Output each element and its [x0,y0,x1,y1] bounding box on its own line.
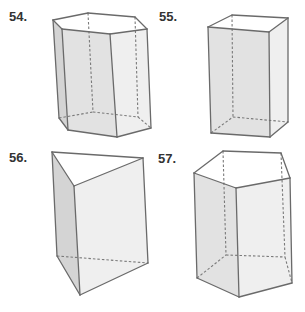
prism-face [236,178,292,297]
prism-figures-canvas: 54. 55. 56. 57. [0,0,305,312]
figure-label-55: 55. [159,9,177,24]
prism-face [269,18,288,137]
figure-label-56: 56. [9,150,27,165]
figure-56-triangular-prism: 56. [9,150,148,295]
figure-54-hexagonal-prism: 54. [9,9,151,137]
figure-label-54: 54. [9,9,27,24]
prism-face [208,27,270,137]
figure-55-rectangular-prism: 55. [159,9,288,137]
prism-face [194,173,239,297]
figure-label-57: 57. [158,151,176,166]
figure-57-pentagonal-prism: 57. [158,151,292,297]
